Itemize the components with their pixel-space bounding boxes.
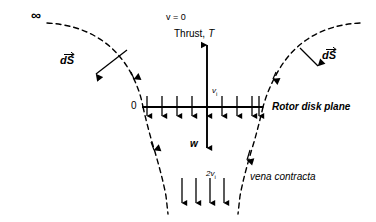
far-wake-velocity-label: 2vi	[206, 170, 216, 180]
vector-arrow-overbar-right	[326, 46, 337, 51]
vector-arrow-overbar-left	[64, 51, 75, 56]
rotor-disk-plane-label: Rotor disk plane	[272, 102, 350, 112]
far-wake-velocity-subscript: i	[214, 174, 215, 180]
far-wake-velocity-arrows	[182, 178, 224, 203]
thrust-label: Thrust,T	[174, 29, 214, 39]
induced-velocity-subscript: i	[216, 91, 217, 97]
disk-inflow-ticks	[147, 96, 259, 107]
origin-label: 0	[131, 101, 137, 111]
induced-velocity-label: vi	[212, 87, 217, 97]
thrust-label-text: Thrust,	[174, 28, 205, 39]
right-streamtube-boundary	[238, 23, 360, 214]
thrust-symbol: T	[208, 28, 214, 39]
vena-contracta-label: vena contracta	[250, 172, 316, 182]
freestream-velocity-label: v = 0	[166, 13, 186, 22]
left-flow-direction-marker-upper	[131, 72, 134, 79]
infinity-label: ∞	[31, 8, 41, 22]
ds-vector-left-label: dS	[60, 55, 74, 66]
ds-vector-right-arrow	[300, 48, 318, 66]
induced-velocity-arrows	[147, 107, 259, 116]
ds-vector-left-arrow	[96, 50, 127, 74]
ds-vector-right-label: dS	[322, 50, 336, 61]
weight-label: w	[190, 139, 198, 149]
